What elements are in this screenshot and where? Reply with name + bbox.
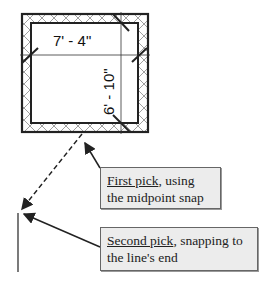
first-pick-callout: First pick, using the midpoint snap — [100, 167, 221, 209]
horizontal-dimension-label: 7' - 4" — [53, 32, 91, 49]
dimension-lines — [20, 12, 150, 134]
second-pick-arrow — [24, 214, 100, 247]
first-pick-label: First pick — [107, 173, 158, 188]
second-pick-label: Second pick — [107, 233, 173, 248]
vertical-dimension-label: 6' - 10" — [100, 68, 117, 115]
first-pick-arrow — [85, 143, 100, 168]
second-pick-callout: Second pick, snapping to the line's end — [100, 227, 258, 271]
dashed-pick-line — [22, 134, 82, 209]
